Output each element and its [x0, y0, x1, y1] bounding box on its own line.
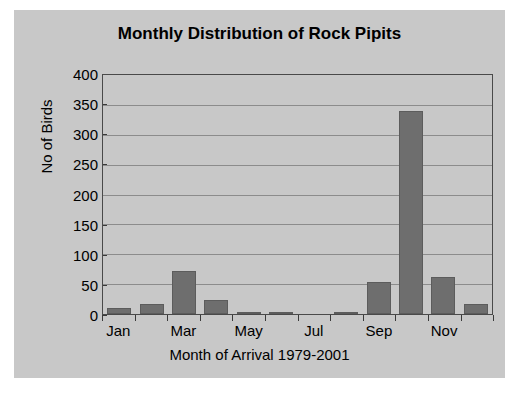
bar-slot-feb	[135, 75, 167, 314]
x-tick-mark-8	[363, 315, 364, 321]
bar-slot-jun	[265, 75, 297, 314]
bar-oct[interactable]	[399, 111, 423, 314]
x-tick-label-dec	[460, 322, 493, 344]
bar-slot-mar	[168, 75, 200, 314]
x-tick-mark-7	[330, 315, 331, 321]
bar-mar[interactable]	[172, 271, 196, 314]
bar-slot-sep	[362, 75, 394, 314]
x-tick-label-jun	[265, 322, 298, 344]
y-tick-label-400: 400	[54, 67, 98, 82]
bar-apr[interactable]	[204, 300, 228, 314]
x-tick-label-may: May	[232, 322, 265, 344]
x-tick-mark-5	[265, 315, 266, 321]
x-tick-label-apr	[200, 322, 233, 344]
x-tick-mark-10	[428, 315, 429, 321]
y-tick-label-150: 150	[54, 217, 98, 232]
x-tick-mark-2	[167, 315, 168, 321]
bar-slot-jan	[103, 75, 135, 314]
y-tick-label-250: 250	[54, 157, 98, 172]
y-tick-label-0: 0	[54, 308, 98, 323]
bar-jun[interactable]	[269, 312, 293, 314]
x-tick-mark-12	[493, 315, 494, 321]
bar-dec[interactable]	[464, 304, 488, 314]
x-axis-title: Month of Arrival 1979-2001	[14, 346, 505, 363]
y-tick-label-350: 350	[54, 97, 98, 112]
chart-figure: Monthly Distribution of Rock Pipits No o…	[14, 10, 505, 378]
bar-slot-apr	[200, 75, 232, 314]
x-tick-mark-0	[102, 315, 103, 321]
y-tick-label-100: 100	[54, 247, 98, 262]
y-tick-label-50: 50	[54, 277, 98, 292]
x-tick-label-jan: Jan	[102, 322, 135, 344]
bar-may[interactable]	[237, 312, 261, 314]
x-tick-label-oct	[395, 322, 428, 344]
bar-slot-jul	[298, 75, 330, 314]
chart-title: Monthly Distribution of Rock Pipits	[14, 24, 505, 44]
bar-jan[interactable]	[107, 308, 131, 314]
bar-slot-dec	[460, 75, 492, 314]
x-tick-label-jul: Jul	[297, 322, 330, 344]
bars-layer	[103, 75, 492, 314]
y-tick-label-300: 300	[54, 127, 98, 142]
x-tick-mark-1	[135, 315, 136, 321]
plot-area	[102, 74, 493, 315]
x-tick-mark-11	[461, 315, 462, 321]
x-tick-label-aug	[330, 322, 363, 344]
x-tick-label-mar: Mar	[167, 322, 200, 344]
x-tick-mark-9	[395, 315, 396, 321]
x-tick-label-nov: Nov	[428, 322, 461, 344]
y-tick-label-200: 200	[54, 187, 98, 202]
x-axis-tick-labels: Jan Mar May Jul Sep Nov	[102, 322, 493, 344]
bar-sep[interactable]	[367, 282, 391, 314]
x-tick-label-sep: Sep	[363, 322, 396, 344]
x-tick-label-feb	[135, 322, 168, 344]
y-axis-tick-labels: 400 350 300 250 200 150 100 50 0	[50, 74, 98, 315]
bar-slot-oct	[395, 75, 427, 314]
x-tick-mark-6	[298, 315, 299, 321]
x-tick-mark-3	[200, 315, 201, 321]
x-tick-mark-4	[232, 315, 233, 321]
bar-slot-aug	[330, 75, 362, 314]
bar-nov[interactable]	[431, 277, 455, 314]
bar-aug[interactable]	[334, 312, 358, 314]
bar-slot-may	[233, 75, 265, 314]
bar-feb[interactable]	[140, 304, 164, 314]
bar-slot-nov	[427, 75, 459, 314]
